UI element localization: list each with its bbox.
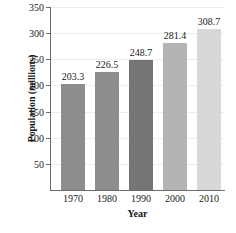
bar-value-label: 308.7 bbox=[198, 16, 221, 27]
y-tick-label: 250 bbox=[29, 54, 44, 65]
y-tick-label: 150 bbox=[29, 106, 44, 117]
y-tick-label: 200 bbox=[29, 80, 44, 91]
bar-value-label: 248.7 bbox=[130, 47, 153, 58]
bar-chart-figure: Population (millions) 501001502002503003… bbox=[0, 0, 236, 233]
gridline bbox=[51, 7, 225, 8]
y-tick-label: 100 bbox=[29, 132, 44, 143]
x-axis-title: Year bbox=[50, 208, 225, 219]
bar: 308.7 bbox=[197, 29, 221, 190]
y-tick-label: 50 bbox=[34, 158, 44, 169]
bar: 203.3 bbox=[61, 84, 85, 190]
y-tick-label: 350 bbox=[29, 2, 44, 13]
bar-value-label: 203.3 bbox=[62, 71, 85, 82]
y-tick-label: 300 bbox=[29, 28, 44, 39]
y-axis-title: Population (millions) bbox=[26, 19, 37, 179]
x-tick-label: 2010 bbox=[189, 193, 229, 204]
plot-area: 50100150200250300350 203.3226.5248.7281.… bbox=[50, 7, 225, 191]
bar: 226.5 bbox=[95, 72, 119, 190]
bar-value-label: 226.5 bbox=[96, 59, 119, 70]
bar: 248.7 bbox=[129, 60, 153, 190]
x-axis-line bbox=[50, 190, 225, 191]
bar-value-label: 281.4 bbox=[164, 30, 187, 41]
bar: 281.4 bbox=[163, 43, 187, 190]
